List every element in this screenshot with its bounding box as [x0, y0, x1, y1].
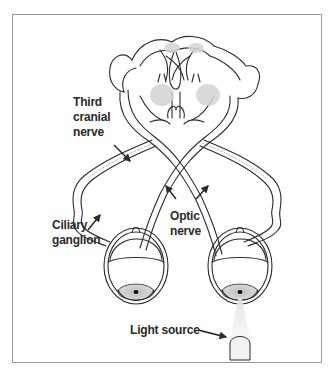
light-source-label: Light source	[130, 323, 200, 338]
right-pupil	[238, 290, 243, 294]
light-source-icon	[230, 337, 250, 361]
midbrain-pathways	[158, 50, 200, 118]
light-source-arrow	[198, 330, 226, 337]
third-cranial-nerve-label: Third cranial nerve	[73, 95, 110, 140]
third-cranial-nerve-arrow	[114, 145, 130, 161]
brain-outline	[110, 36, 260, 98]
light-beam	[230, 298, 250, 340]
optic-nerve-label: Optic nerve	[170, 209, 201, 239]
ciliary-ganglion-label: Ciliary ganglion	[52, 218, 100, 248]
pretectal-nuclei	[150, 43, 220, 106]
third-cranial-nerve-right	[200, 140, 281, 246]
left-pupil	[134, 290, 139, 294]
pupillary-reflex-diagram	[0, 0, 333, 372]
